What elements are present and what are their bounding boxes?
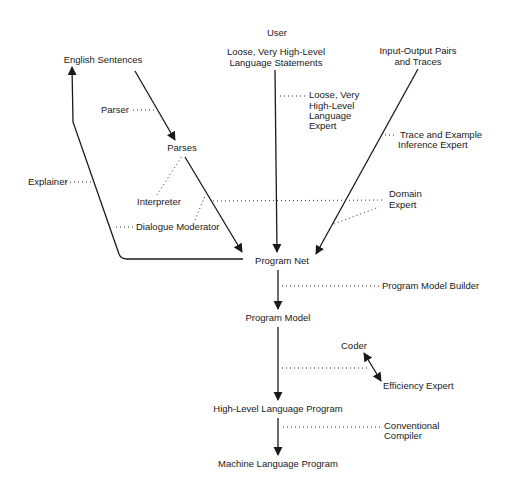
node-english-sentences: English Sentences — [64, 54, 143, 65]
arrow-english-to-parses — [135, 71, 175, 140]
program-synthesis-diagram: User Loose, Very High-Level Language Sta… — [0, 0, 505, 493]
node-program-net: Program Net — [255, 255, 309, 266]
arrow-parses-to-program-net — [185, 157, 242, 252]
expert-program-model-builder: Program Model Builder — [382, 280, 479, 291]
dotted-dialogue-up — [195, 196, 205, 220]
node-parses: Parses — [167, 142, 197, 153]
expert-explainer: Explainer — [28, 176, 68, 187]
expert-loose-line4: Expert — [309, 120, 337, 131]
expert-coder: Coder — [341, 340, 367, 351]
expert-parser: Parser — [101, 104, 129, 115]
node-io-pairs-line2: and Traces — [395, 56, 442, 67]
node-loose-statements-line1: Loose, Very High-Level — [227, 46, 325, 57]
node-user: User — [267, 27, 287, 38]
node-program-model: Program Model — [246, 312, 311, 323]
arrow-loose-to-program-net — [275, 70, 277, 252]
expert-domain-line1: Domain — [389, 188, 422, 199]
arrow-coder-efficiency — [364, 353, 381, 381]
expert-interpreter: Interpreter — [137, 196, 181, 207]
expert-dialogue-moderator: Dialogue Moderator — [136, 221, 219, 232]
node-io-pairs-line1: Input-Output Pairs — [379, 45, 456, 56]
node-machine-program: Machine Language Program — [218, 458, 338, 469]
dotted-domain-horizontal — [213, 200, 385, 201]
expert-compiler-line2: Compiler — [384, 430, 422, 441]
expert-trace-line2: Inference Expert — [398, 139, 468, 150]
expert-efficiency: Efficiency Expert — [383, 380, 454, 391]
node-loose-statements-line2: Language Statements — [230, 57, 323, 68]
dotted-interpreter — [157, 156, 182, 195]
node-high-level-program: High-Level Language Program — [213, 403, 342, 414]
expert-loose-line1: Loose, Very — [309, 89, 359, 100]
expert-domain-line2: Expert — [389, 199, 417, 210]
